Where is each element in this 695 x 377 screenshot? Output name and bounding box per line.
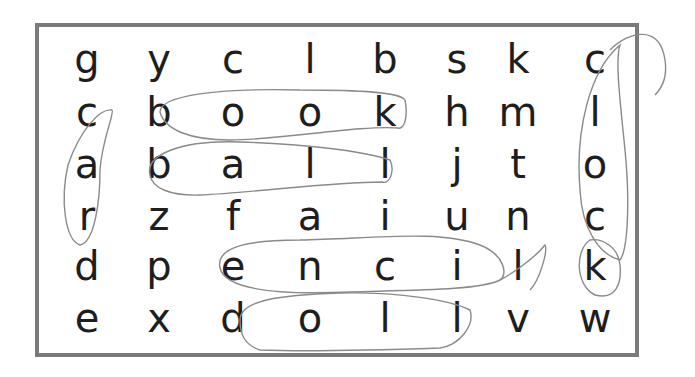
grid-letter: r bbox=[57, 190, 117, 242]
grid-letter: o bbox=[565, 138, 625, 190]
grid-letter: b bbox=[129, 86, 189, 138]
grid-letter: t bbox=[488, 138, 548, 190]
grid-letter: s bbox=[427, 33, 487, 85]
grid-letter: k bbox=[355, 86, 415, 138]
grid-letter: v bbox=[488, 292, 548, 344]
grid-letter: i bbox=[355, 190, 415, 242]
grid-letter: j bbox=[427, 138, 487, 190]
grid-letter: e bbox=[57, 292, 117, 344]
grid-letter: l bbox=[280, 138, 340, 190]
grid-letter: g bbox=[57, 33, 117, 85]
grid-letter: d bbox=[203, 292, 263, 344]
grid-letter: h bbox=[427, 86, 487, 138]
grid-letter: l bbox=[565, 86, 625, 138]
grid-letter: c bbox=[565, 33, 625, 85]
grid-letter: a bbox=[203, 138, 263, 190]
grid-letter: l bbox=[427, 292, 487, 344]
grid-letter: o bbox=[203, 86, 263, 138]
grid-letter: m bbox=[488, 86, 548, 138]
grid-letter: p bbox=[129, 240, 189, 292]
letter-grid: gyclbskccbookhmlaballjtorzfaiuncdpencilk… bbox=[0, 0, 695, 377]
grid-letter: o bbox=[280, 292, 340, 344]
grid-letter: l bbox=[280, 33, 340, 85]
grid-letter: a bbox=[280, 190, 340, 242]
grid-letter: a bbox=[57, 138, 117, 190]
grid-letter: x bbox=[129, 292, 189, 344]
grid-letter: f bbox=[203, 190, 263, 242]
grid-letter: b bbox=[129, 138, 189, 190]
grid-letter: b bbox=[355, 33, 415, 85]
grid-letter: c bbox=[565, 190, 625, 242]
grid-letter: u bbox=[427, 190, 487, 242]
grid-letter: z bbox=[129, 190, 189, 242]
grid-letter: w bbox=[565, 292, 625, 344]
grid-letter: n bbox=[488, 190, 548, 242]
grid-letter: l bbox=[355, 138, 415, 190]
grid-letter: l bbox=[488, 240, 548, 292]
grid-letter: n bbox=[280, 240, 340, 292]
grid-letter: k bbox=[565, 240, 625, 292]
grid-letter: i bbox=[427, 240, 487, 292]
grid-letter: d bbox=[57, 240, 117, 292]
grid-letter: y bbox=[129, 33, 189, 85]
grid-letter: c bbox=[57, 86, 117, 138]
grid-letter: o bbox=[280, 86, 340, 138]
grid-letter: e bbox=[203, 240, 263, 292]
grid-letter: k bbox=[488, 33, 548, 85]
grid-letter: c bbox=[355, 240, 415, 292]
grid-letter: c bbox=[203, 33, 263, 85]
grid-letter: l bbox=[355, 292, 415, 344]
